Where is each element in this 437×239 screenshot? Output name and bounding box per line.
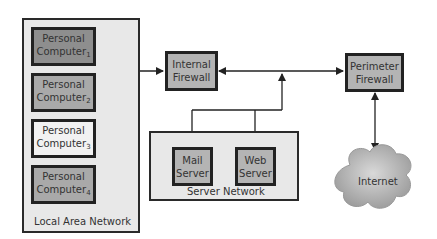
personal-computer-2[interactable]: PersonalComputer2 [31, 73, 96, 112]
personal-computer-3[interactable]: PersonalComputer3 [31, 119, 96, 158]
personal-computer-1[interactable]: PersonalComputer1 [31, 27, 96, 66]
local-area-network-label: Local Area Network [34, 216, 131, 227]
internet-label: Internet [358, 176, 398, 187]
personal-computer-4[interactable]: PersonalComputer4 [31, 165, 96, 204]
internal-firewall[interactable]: InternalFirewall [165, 51, 218, 91]
web-server[interactable]: WebServer [235, 147, 276, 186]
mail-server[interactable]: MailServer [172, 147, 213, 186]
server-network-label: Server Network [187, 186, 265, 197]
perimeter-firewall[interactable]: PerimeterFirewall [345, 53, 404, 92]
